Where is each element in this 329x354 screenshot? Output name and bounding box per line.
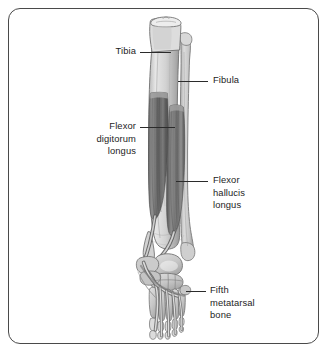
- label-flexor-hallucis-longus: Flexor hallucis longus: [213, 174, 287, 212]
- label-fibula: Fibula: [213, 74, 283, 87]
- label-tibia: Tibia: [84, 45, 136, 58]
- leader-line-flexor-digitorum-longus: [140, 127, 175, 128]
- leader-line-fibula: [178, 81, 208, 82]
- label-fifth-metatarsal-bone: Fifth metatarsal bone: [210, 284, 290, 322]
- label-flexor-digitorum-longus: Flexor digitorum longus: [62, 120, 136, 158]
- leader-line-tibia: [140, 52, 171, 53]
- anatomy-figure: Tibia Fibula Flexor digitorum longus Fle…: [0, 0, 329, 354]
- leader-line-flexor-hallucis-longus: [176, 181, 208, 182]
- leader-line-fifth-metatarsal-bone: [186, 291, 206, 292]
